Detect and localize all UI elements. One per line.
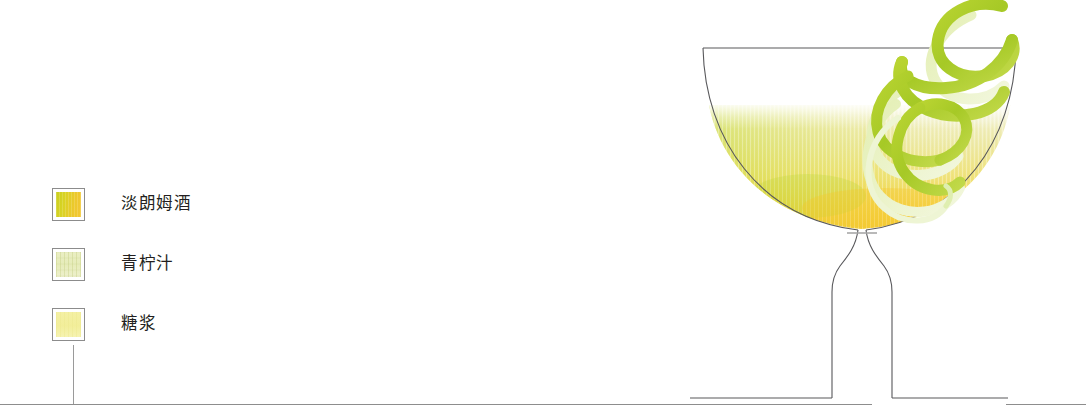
legend-label-lime-juice: 青柠汁 bbox=[121, 252, 174, 276]
swatch-lime-juice bbox=[52, 248, 85, 281]
legend-item-light-rum: 淡朗姆酒 bbox=[52, 188, 312, 248]
swatch-light-rum bbox=[52, 188, 85, 221]
legend-label-light-rum: 淡朗姆酒 bbox=[121, 192, 191, 216]
legend-leader-line bbox=[73, 345, 74, 404]
swatch-syrup bbox=[52, 308, 85, 341]
swatch-fill-syrup bbox=[56, 312, 81, 337]
legend-item-syrup: 糖浆 bbox=[52, 308, 312, 368]
illustration-canvas: 淡朗姆酒 青柠汁 糖浆 bbox=[0, 0, 1086, 420]
swatch-fill-light-rum bbox=[56, 192, 81, 217]
legend-item-lime-juice: 青柠汁 bbox=[52, 248, 312, 308]
coupe-glass bbox=[690, 0, 1086, 420]
swatch-fill-lime-juice bbox=[56, 252, 81, 277]
legend-label-syrup: 糖浆 bbox=[121, 312, 156, 336]
ingredient-legend: 淡朗姆酒 青柠汁 糖浆 bbox=[52, 188, 312, 368]
